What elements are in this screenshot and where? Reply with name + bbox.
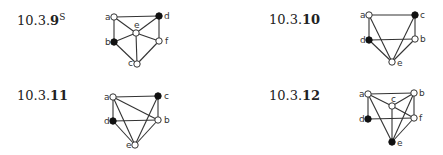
vertex-label: d	[359, 114, 365, 124]
graph-edge	[369, 39, 415, 40]
graph-edge	[114, 42, 137, 64]
graph-edge	[114, 16, 159, 17]
graph: abcdfe	[359, 88, 425, 148]
vertex-label: b	[420, 34, 426, 44]
graph-vertex	[389, 139, 395, 145]
graph-edge	[137, 41, 159, 64]
vertex-label: e	[397, 138, 403, 148]
vertex-label: e	[397, 58, 403, 68]
graph-vertex	[133, 30, 139, 36]
vertex-label: b	[105, 37, 111, 47]
vertex-label: f	[165, 36, 169, 46]
graph-vertex	[411, 90, 417, 96]
graph-vertex	[412, 12, 418, 18]
graph-vertex	[365, 116, 371, 122]
vertex-label: b	[164, 115, 170, 125]
graph-vertex	[156, 13, 162, 19]
vertex-label: e	[126, 140, 132, 150]
vertex-label: c	[128, 58, 133, 68]
graph: adebfc	[105, 11, 170, 68]
graph-edge	[369, 15, 392, 62]
vertex-label: a	[360, 10, 366, 20]
graph: acdbe	[360, 10, 426, 68]
graph-vertex	[134, 61, 140, 67]
graph-edge	[113, 120, 158, 121]
graph-vertex	[155, 93, 161, 99]
graph-edge	[368, 118, 414, 119]
graph-vertex	[110, 94, 116, 100]
vertex-label: a	[104, 92, 110, 102]
graph-vertex	[111, 14, 117, 20]
vertex-label: a	[105, 12, 111, 22]
graph-edge	[369, 40, 392, 62]
graph-edge	[136, 33, 137, 64]
graph: acdbe	[104, 91, 170, 150]
graph-edge	[392, 39, 415, 62]
vertex-label: b	[419, 88, 425, 98]
graph-vertex	[366, 37, 372, 43]
vertex-label: d	[164, 11, 170, 21]
graph-edge	[114, 17, 136, 33]
graph-edge	[113, 97, 158, 120]
graph-vertex	[132, 142, 138, 148]
graph-vertex	[366, 12, 372, 18]
vertex-label: e	[134, 20, 140, 30]
graph-vertex	[110, 118, 116, 124]
graph-vertex	[389, 59, 395, 65]
graph-vertex	[412, 36, 418, 42]
graph-edge	[113, 121, 135, 145]
vertex-label: d	[104, 116, 110, 126]
graph-vertex	[156, 38, 162, 44]
graph-edge	[135, 120, 158, 145]
vertex-label: c	[391, 94, 396, 104]
graph-edge	[368, 94, 392, 142]
graph-edge	[113, 96, 158, 97]
vertex-label: f	[419, 113, 423, 123]
graph-vertex	[365, 91, 371, 97]
vertex-label: d	[360, 35, 366, 45]
vertex-label: a	[359, 89, 365, 99]
graph-diagrams: adebfcacdbeacdbeabcdfe	[0, 0, 443, 155]
graph-vertex	[411, 115, 417, 121]
graph-edge	[392, 118, 414, 142]
graph-vertex	[155, 117, 161, 123]
graph-vertex	[111, 39, 117, 45]
vertex-label: c	[164, 91, 169, 101]
vertex-label: c	[420, 10, 425, 20]
